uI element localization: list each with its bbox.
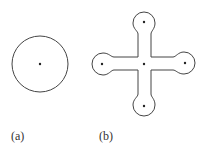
diagram-canvas: [0, 0, 206, 146]
bottom-lobe-point: [143, 105, 145, 107]
panel-a-label: (a): [11, 130, 24, 142]
left-lobe-point: [101, 63, 103, 65]
figure: (a) (b): [0, 0, 206, 146]
center-point: [143, 63, 145, 65]
panel-b-shape: [92, 12, 195, 116]
right-lobe-point: [184, 62, 186, 64]
center-point: [39, 63, 41, 65]
panel-b-label: (b): [99, 130, 113, 142]
top-lobe-point: [143, 21, 145, 23]
panel-a-shape: [12, 36, 68, 92]
